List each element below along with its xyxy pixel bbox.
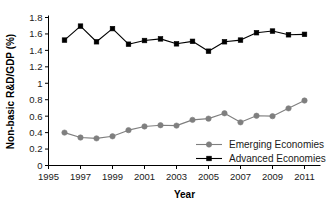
- data-point-marker: [142, 124, 147, 129]
- y-axis-tick-label: 0.4: [29, 127, 42, 138]
- data-point-marker: [286, 32, 291, 37]
- data-point-marker: [270, 29, 275, 34]
- data-point-marker: [254, 113, 259, 118]
- series-line-advanced: [65, 26, 305, 51]
- data-point-marker: [222, 39, 227, 44]
- x-axis-tick-label: 2005: [198, 171, 219, 182]
- x-axis-tick-label: 1999: [102, 171, 123, 182]
- x-axis-title: Year: [174, 189, 195, 200]
- data-point-marker: [270, 113, 275, 118]
- line-chart: 00.20.40.60.811.21.41.61.819951997199920…: [0, 0, 332, 213]
- data-point-marker: [94, 39, 99, 44]
- y-axis-tick-label: 1.6: [29, 28, 42, 39]
- x-axis-tick-label: 1995: [38, 171, 59, 182]
- data-point-marker: [222, 111, 227, 116]
- data-point-marker: [206, 49, 211, 54]
- legend-item-emerging-label: Emerging Economies: [229, 139, 324, 150]
- data-point-marker: [302, 98, 307, 103]
- y-axis-tick-label: 1.2: [29, 61, 42, 72]
- data-point-marker: [238, 120, 243, 125]
- data-point-marker: [126, 127, 131, 132]
- data-point-marker: [158, 123, 163, 128]
- data-point-marker: [62, 130, 67, 135]
- legend-item-advanced-marker: [207, 156, 212, 161]
- legend-item-advanced-label: Advanced Economies: [229, 153, 326, 164]
- y-axis-tick-label: 0.6: [29, 111, 42, 122]
- data-point-marker: [302, 32, 307, 37]
- y-axis-tick-label: 1.4: [29, 45, 42, 56]
- data-point-marker: [254, 30, 259, 35]
- series-line-emerging: [65, 101, 305, 139]
- data-point-marker: [206, 116, 211, 121]
- y-axis-tick-label: 1: [37, 78, 42, 89]
- x-axis-tick-label: 2009: [262, 171, 283, 182]
- x-axis-tick-label: 2001: [134, 171, 155, 182]
- x-axis-tick-label: 2003: [166, 171, 187, 182]
- x-axis-tick-label: 1997: [70, 171, 91, 182]
- data-point-marker: [142, 38, 147, 43]
- data-point-marker: [62, 38, 67, 43]
- chart-container: 00.20.40.60.811.21.41.61.819951997199920…: [0, 0, 332, 213]
- data-point-marker: [174, 42, 179, 47]
- x-axis-tick-label: 2011: [294, 171, 314, 182]
- y-axis-tick-label: 0.2: [29, 143, 42, 154]
- data-point-marker: [238, 38, 243, 43]
- y-axis-tick-label: 0.8: [29, 94, 42, 105]
- data-point-marker: [110, 26, 115, 31]
- y-axis-tick-label: 1.8: [29, 12, 42, 23]
- data-point-marker: [78, 135, 83, 140]
- data-point-marker: [174, 123, 179, 128]
- y-axis-tick-label: 0: [37, 160, 42, 171]
- data-point-marker: [78, 24, 83, 29]
- x-axis-tick-label: 2007: [230, 171, 251, 182]
- legend-item-emerging-marker: [206, 142, 211, 147]
- data-point-marker: [286, 106, 291, 111]
- data-point-marker: [190, 39, 195, 44]
- data-point-marker: [94, 136, 99, 141]
- data-point-marker: [158, 37, 163, 42]
- y-axis-title: Non-basic R&D/GDP (%): [5, 34, 16, 149]
- data-point-marker: [110, 134, 115, 139]
- data-point-marker: [190, 117, 195, 122]
- data-point-marker: [126, 42, 131, 47]
